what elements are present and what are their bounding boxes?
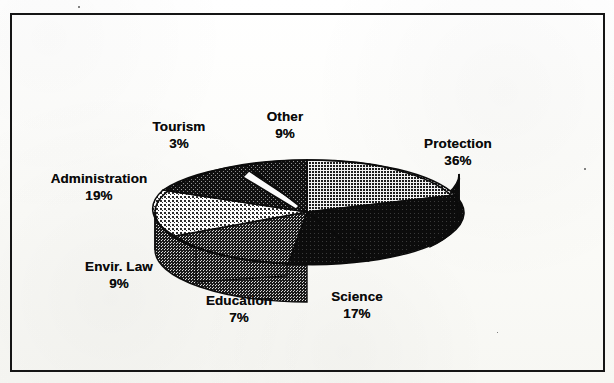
pie-label-education-name: Education (206, 292, 272, 309)
pie-label-protection: Protection 36% (424, 135, 492, 170)
pie-label-science: Science 17% (331, 288, 383, 323)
pie-label-administration: Administration 19% (51, 170, 148, 205)
pie-label-envir-law-name: Envir. Law (85, 258, 153, 275)
pie-label-other-name: Other (267, 108, 304, 125)
pie-label-administration-name: Administration (51, 170, 148, 187)
pie-label-envir-law: Envir. Law 9% (85, 258, 153, 293)
pie-label-tourism-name: Tourism (153, 118, 206, 135)
pie-label-education-value: 7% (206, 309, 272, 326)
pie-label-protection-value: 36% (424, 152, 492, 169)
pie-label-other: Other 9% (267, 108, 304, 143)
pie-label-science-name: Science (331, 288, 383, 305)
pie-chart-page: Protection 36% Science 17% Education 7% … (0, 0, 614, 383)
pie-label-tourism: Tourism 3% (153, 118, 206, 153)
pie-label-protection-name: Protection (424, 135, 492, 152)
pie-label-envir-law-value: 9% (85, 275, 153, 292)
pie-label-administration-value: 19% (51, 187, 148, 204)
pie-label-science-value: 17% (331, 305, 383, 322)
pie-label-tourism-value: 3% (153, 135, 206, 152)
pie-label-other-value: 9% (267, 125, 304, 142)
pie-label-education: Education 7% (206, 292, 272, 327)
